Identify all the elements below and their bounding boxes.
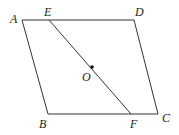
label-a: A — [9, 12, 18, 26]
label-c: C — [162, 111, 171, 125]
label-f: F — [129, 117, 138, 131]
label-o: O — [82, 70, 91, 84]
label-e: E — [43, 5, 52, 19]
segment-ef — [49, 20, 131, 114]
label-d: D — [134, 5, 144, 19]
diagram-svg: A E D O B F C — [0, 0, 179, 135]
geometry-diagram: A E D O B F C — [0, 0, 179, 135]
point-o-dot — [90, 65, 94, 69]
label-b: B — [39, 117, 47, 131]
